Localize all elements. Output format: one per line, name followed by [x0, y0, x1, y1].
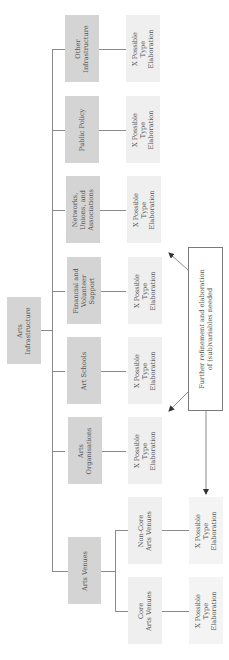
arrow-down-left-icon: [169, 392, 188, 411]
arrow-up-icon: [169, 253, 188, 270]
callout-arrows: [0, 0, 229, 660]
